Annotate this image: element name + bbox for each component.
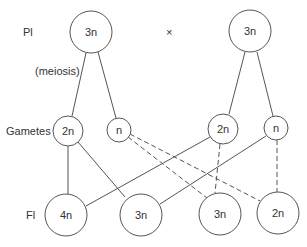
label-gametes: Gametes	[6, 125, 51, 137]
triploid-cross-diagram: Pl (meiosis) Gametes Fl × 3n 3n 2n n 2n …	[0, 0, 307, 247]
label-meiosis: (meiosis)	[35, 65, 80, 77]
svg-text:n: n	[273, 122, 279, 134]
node-f1-3n-b: 3n	[199, 193, 241, 235]
svg-text:3n: 3n	[85, 26, 97, 38]
edge-p1right-to-n	[257, 52, 273, 116]
cross-symbol: ×	[166, 26, 172, 38]
edge-p1left-to-2n	[72, 53, 86, 116]
svg-text:n: n	[116, 124, 122, 136]
svg-text:2n: 2n	[62, 125, 74, 137]
node-p1-left: 3n	[70, 11, 112, 53]
svg-text:3n: 3n	[135, 209, 147, 221]
svg-text:3n: 3n	[244, 25, 256, 37]
edge-p1left-to-n	[98, 52, 116, 118]
svg-text:4n: 4n	[60, 209, 72, 221]
label-p1: Pl	[23, 26, 33, 38]
node-f1-4n: 4n	[45, 194, 87, 236]
node-gamete-left-2n: 2n	[53, 116, 83, 146]
svg-text:2n: 2n	[217, 123, 229, 135]
node-gamete-right-2n: 2n	[208, 114, 238, 144]
edge-nleft-to-2n	[130, 134, 260, 201]
svg-text:3n: 3n	[214, 208, 226, 220]
edge-p1right-to-2n	[229, 52, 245, 114]
node-f1-3n-a: 3n	[120, 194, 162, 236]
node-f1-2n: 2n	[257, 192, 299, 234]
label-f1: Fl	[26, 209, 35, 221]
node-gamete-left-n: n	[107, 118, 131, 142]
node-gamete-right-n: n	[264, 116, 288, 140]
node-p1-right: 3n	[229, 10, 271, 52]
svg-text:2n: 2n	[272, 207, 284, 219]
